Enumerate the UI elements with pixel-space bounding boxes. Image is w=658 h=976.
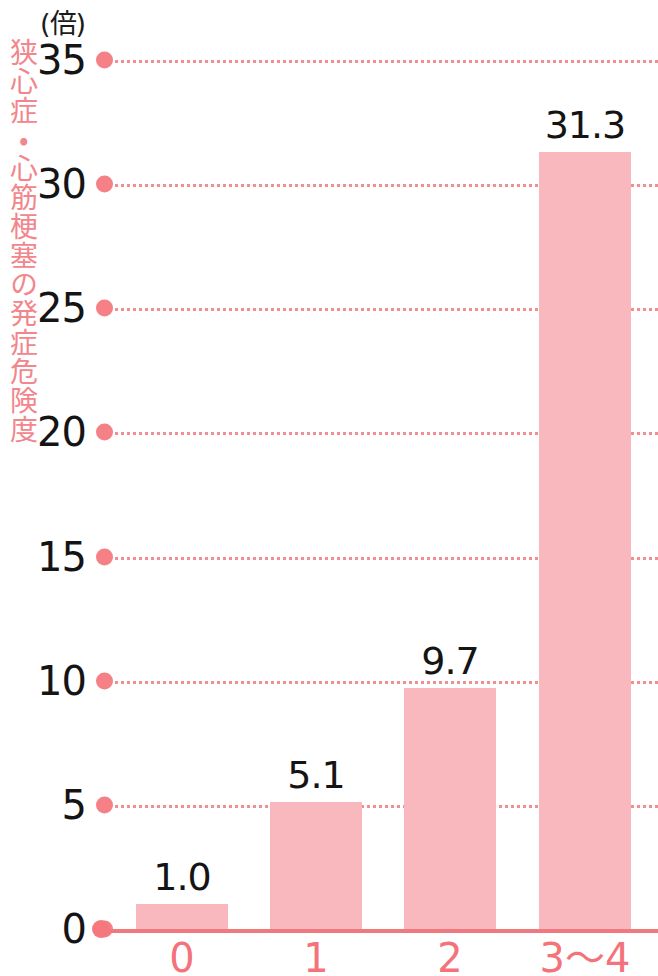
bar	[404, 688, 496, 929]
gridline	[104, 60, 658, 63]
y-tick-dot-icon	[96, 52, 113, 69]
x-tick-label: 2	[374, 938, 526, 976]
y-tick-label: 5	[0, 785, 86, 825]
bar-value-label: 31.3	[519, 106, 651, 144]
y-tick-dot-icon	[96, 672, 113, 689]
x-axis-line	[96, 929, 658, 933]
y-tick-dot-icon	[96, 176, 113, 193]
y-tick-label: 0	[0, 909, 86, 949]
bar-chart: (倍) 狭心症・心筋梗塞の発症危険度 05101520253035 1.05.1…	[0, 0, 658, 976]
bar-value-label: 5.1	[250, 756, 382, 794]
bar	[136, 904, 228, 929]
y-tick-dot-icon	[96, 548, 113, 565]
bar	[539, 152, 631, 929]
y-tick-dot-icon	[96, 300, 113, 317]
bar-value-label: 9.7	[384, 642, 516, 680]
x-tick-label: 3〜4	[509, 938, 658, 976]
plot-area: 05101520253035 1.05.19.731.3	[104, 48, 658, 932]
y-tick-dot-icon	[96, 424, 113, 441]
y-axis-title: 狭心症・心筋梗塞の発症危険度	[1, 38, 35, 444]
x-tick-label: 1	[240, 938, 392, 976]
y-tick-label: 15	[0, 537, 86, 577]
y-tick-label: 10	[0, 661, 86, 701]
y-tick-label: 30	[0, 164, 86, 204]
y-tick-label: 25	[0, 288, 86, 328]
x-tick-label: 0	[106, 938, 258, 976]
bar	[270, 802, 362, 929]
y-tick-dot-icon	[96, 796, 113, 813]
y-tick-label: 35	[0, 40, 86, 80]
bar-value-label: 1.0	[116, 858, 248, 896]
y-axis-unit-label: (倍)	[40, 2, 85, 41]
y-tick-label: 20	[0, 412, 86, 452]
x-axis-origin-dot	[92, 920, 110, 938]
